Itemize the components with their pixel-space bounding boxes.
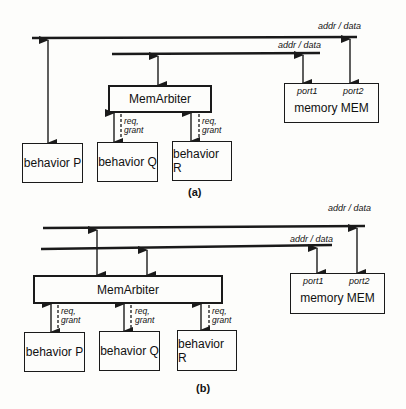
behavior-q-box-a: behavior Q [97, 142, 158, 182]
behavior-label: behavior P [26, 345, 83, 359]
bus-b-top [43, 226, 365, 228]
behavior-label: behavior R [173, 147, 231, 175]
bus-b-second-label: addr / data [290, 234, 333, 244]
req-grant-label: req,grant [61, 307, 80, 325]
caption-b: (b) [196, 382, 210, 394]
bus-a-second [112, 53, 320, 54]
behavior-label: behavior Q [98, 155, 157, 169]
bus-a-top [32, 37, 357, 38]
port1-label: port1 [303, 276, 324, 286]
bus-b-second [41, 245, 332, 249]
req-grant-label: req,grant [202, 117, 221, 135]
caption-a: (a) [188, 186, 201, 198]
arbiter-box-a: MemArbiter [108, 85, 212, 113]
arbiter-box-b: MemArbiter [33, 275, 223, 304]
req-grant-label: req,grant [212, 307, 231, 325]
memory-name: memory MEM [294, 101, 369, 115]
port2-label: port2 [349, 276, 370, 286]
behavior-label: behavior R [178, 337, 236, 365]
behavior-label: behavior P [24, 156, 81, 170]
behavior-r-box-b: behavior R [177, 330, 237, 371]
bus-a-second-label: addr / data [278, 40, 321, 50]
arbiter-label: MemArbiter [129, 92, 191, 106]
memory-name: memory MEM [300, 291, 375, 305]
bus-a-top-label: addr / data [318, 21, 361, 31]
behavior-q-box-b: behavior Q [99, 331, 160, 371]
req-grant-label: req,grant [135, 307, 154, 325]
arbiter-label: MemArbiter [97, 283, 159, 297]
memory-box-b: port1 port2 memory MEM [290, 273, 385, 314]
behavior-p-box-a: behavior P [22, 143, 83, 183]
behavior-p-box-b: behavior P [24, 332, 85, 372]
bus-b-top-label: addr / data [328, 203, 371, 213]
memory-box-a: port1 port2 memory MEM [284, 83, 379, 123]
port2-label: port2 [343, 86, 364, 96]
req-grant-label: req,grant [124, 117, 143, 135]
port1-label: port1 [297, 86, 318, 96]
behavior-r-box-a: behavior R [172, 141, 232, 181]
behavior-label: behavior Q [100, 344, 159, 358]
